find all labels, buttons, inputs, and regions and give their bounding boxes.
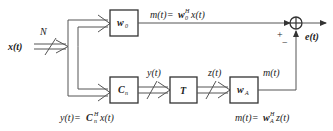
svg-text:m(t)=: m(t)= — [235, 112, 258, 124]
svg-text:H: H — [269, 111, 275, 117]
svg-text:m(t)=: m(t)= — [150, 9, 173, 21]
svg-text:H: H — [93, 111, 99, 117]
svg-text:w: w — [178, 9, 185, 20]
svg-text:z(t): z(t) — [275, 112, 290, 124]
bus-width-label: N — [39, 26, 48, 37]
cn-block-sub: n — [125, 90, 128, 96]
m-signal-label: m(t) — [263, 67, 280, 79]
wa-block-sub: A — [244, 90, 249, 96]
z-bus — [197, 81, 230, 99]
y-equation: y(t)= C H n x(t) — [59, 111, 115, 124]
svg-text:A: A — [269, 118, 274, 124]
input-label: x(t) — [7, 41, 22, 53]
top-formula: m(t)= w H 0 x(t) — [150, 8, 206, 21]
z-signal-label: z(t) — [207, 67, 222, 79]
w0-block-label: w — [117, 17, 124, 28]
w0-block-sub: 0 — [125, 23, 128, 29]
svg-text:x(t): x(t) — [99, 112, 115, 124]
svg-text:y(t)=: y(t)= — [59, 112, 81, 124]
error-label: e(t) — [305, 31, 319, 43]
bus-slash — [45, 38, 56, 55]
svg-text:C: C — [86, 112, 93, 123]
wa-block-label: w — [237, 84, 244, 95]
cn-block-label: C — [118, 84, 125, 95]
w0-block[interactable] — [110, 10, 138, 36]
input-bus — [34, 38, 68, 55]
minus-sign: − — [282, 37, 288, 48]
svg-text:n: n — [94, 118, 97, 124]
svg-text:H: H — [184, 8, 190, 14]
branch-lines — [68, 15, 110, 101]
block-diagram: x(t) N w 0 m(t)= w H 0 x(t) + − e(t) C n — [0, 0, 333, 131]
m-equation: m(t)= w H A z(t) — [235, 111, 290, 124]
t-block-label: T — [180, 85, 187, 96]
svg-text:w: w — [263, 112, 270, 123]
svg-text:0: 0 — [185, 15, 188, 21]
summer-junction — [290, 17, 302, 29]
wa-block[interactable] — [230, 77, 258, 103]
svg-text:x(t): x(t) — [190, 9, 206, 21]
y-signal-label: y(t) — [146, 67, 162, 79]
y-bus — [138, 81, 170, 99]
